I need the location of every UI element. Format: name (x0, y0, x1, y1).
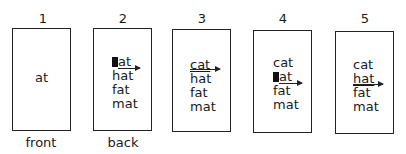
card-2-back: at hat fat mat (93, 28, 152, 131)
word-row-4: mat (190, 100, 230, 114)
arrow-icon (280, 83, 302, 84)
word-row-1: cat (353, 58, 393, 72)
word-row-3: fat (112, 83, 151, 97)
word-row-4: mat (273, 98, 311, 112)
word-row-1: cat (273, 56, 311, 70)
arrow-icon (120, 68, 140, 69)
card-4: cat at fat mat (253, 30, 312, 133)
word-row-4: mat (353, 100, 393, 114)
word-row-2: hat (190, 72, 230, 86)
card-3: cat hat fat mat (172, 29, 231, 132)
word-row-3: fat (353, 86, 393, 100)
card-1-front: at (12, 28, 71, 131)
card-5: cat hat fat mat (335, 31, 394, 134)
card-2-number: 2 (92, 11, 154, 26)
word-row-4: mat (112, 97, 151, 111)
word-at: at (13, 71, 70, 85)
card-5-number: 5 (334, 11, 396, 26)
word-row-3: fat (273, 84, 311, 98)
word-row-2: at (273, 70, 311, 84)
arrow-icon (190, 69, 220, 70)
arrow-icon (353, 84, 383, 85)
caption-front: front (10, 135, 72, 150)
caption-back: back (92, 135, 154, 150)
card-1-number: 1 (12, 11, 74, 26)
card-4-number: 4 (252, 11, 314, 26)
word-row-3: fat (190, 86, 230, 100)
word-row-2: hat (112, 69, 151, 83)
word-row-1: at (112, 55, 151, 69)
card-3-number: 3 (171, 11, 233, 26)
